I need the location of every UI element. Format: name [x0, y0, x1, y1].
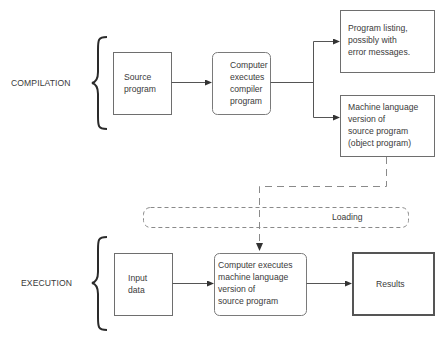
source-program-text: Source program — [124, 71, 156, 95]
text-line: data — [128, 284, 147, 296]
text-line: source program — [218, 295, 293, 307]
object-program-text: Machine language version of source progr… — [348, 101, 418, 149]
dashed-load-path — [260, 157, 387, 245]
input-data-text: Input data — [128, 272, 147, 296]
text-line: compiler — [230, 83, 268, 95]
text-line: version of — [348, 113, 418, 125]
text-line: (object program) — [348, 137, 418, 149]
loading-bar — [144, 208, 409, 228]
results-text: Results — [376, 278, 405, 290]
loading-text: Loading — [332, 211, 363, 223]
text-line: Input — [128, 272, 147, 284]
arrowhead-into-machine-exec — [256, 243, 263, 251]
machine-exec-text: Computer executes machine language versi… — [218, 259, 293, 307]
compilation-brace — [92, 37, 107, 129]
text-line: Computer executes — [218, 259, 293, 271]
listing-text: Program listing, possibly with error mes… — [348, 22, 410, 58]
text-line: machine language — [218, 271, 293, 283]
text-line: Source — [124, 71, 156, 83]
text-line: possibly with — [348, 34, 410, 46]
text-line: Program listing, — [348, 22, 410, 34]
text-line: version of — [218, 283, 293, 295]
text-line: Machine language — [348, 101, 418, 113]
execution-brace — [92, 237, 107, 330]
text-line: error messages. — [348, 46, 410, 58]
text-line: executes — [230, 71, 268, 83]
text-line: program — [230, 95, 268, 107]
compiler-text: Computer executes compiler program — [230, 59, 268, 107]
stage-label-execution: EXECUTION — [21, 278, 72, 288]
text-line: program — [124, 83, 156, 95]
text-line: Computer — [230, 59, 268, 71]
stage-label-compilation: COMPILATION — [11, 78, 71, 88]
text-line: source program — [348, 125, 418, 137]
